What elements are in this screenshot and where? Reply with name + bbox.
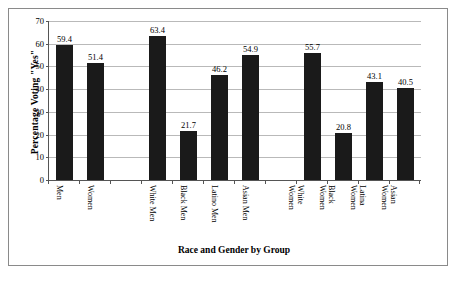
bar-value-label: 46.2 <box>212 64 227 74</box>
bar-slot: 43.1 <box>359 21 390 180</box>
bar[interactable]: 43.1 <box>366 82 383 180</box>
x-axis-tick-cell <box>141 180 172 184</box>
x-axis-category-label: Black Men <box>179 185 188 220</box>
x-axis-category-label-line1: Latina <box>358 185 367 205</box>
bar-value-label: 21.7 <box>181 120 196 130</box>
x-axis-tick-cell <box>265 180 296 184</box>
x-axis-tick-mark <box>141 180 142 184</box>
bar-value-label: 54.9 <box>243 44 258 54</box>
x-axis-tick-cell <box>358 180 389 184</box>
x-axis-category-label-line1: Asian Men <box>241 185 250 220</box>
bar[interactable]: 51.4 <box>87 63 104 180</box>
bar-value-label: 51.4 <box>88 52 103 62</box>
bar-slot: 46.2 <box>204 21 235 180</box>
x-axis-category-label: BlackWomen <box>318 185 336 210</box>
y-axis-tick-label: 30 <box>36 107 45 117</box>
bar[interactable]: 54.9 <box>242 55 259 180</box>
y-axis-tick-label: 40 <box>36 84 45 94</box>
x-axis-label-cell: Men <box>48 185 79 241</box>
bar-slot: 59.4 <box>49 21 80 180</box>
x-axis-tick-cell <box>172 180 203 184</box>
bar[interactable]: 55.7 <box>304 53 321 180</box>
x-axis-tick-mark <box>48 180 49 184</box>
x-axis-tick-mark <box>296 180 297 184</box>
x-axis-category-label-line1: Men <box>55 185 64 200</box>
x-axis-category-label: AsianWomen <box>380 185 398 210</box>
x-axis-tick-mark <box>172 180 173 184</box>
bar-chart-figure: Percentage Voting "Yes" 010203040506070 … <box>0 0 457 282</box>
x-axis-tick-cell <box>296 180 327 184</box>
x-axis-tick-cell <box>234 180 265 184</box>
bar[interactable]: 59.4 <box>56 45 73 180</box>
x-axis-label-cell <box>110 185 141 241</box>
x-axis-category-label-line1: Asian <box>389 185 398 204</box>
x-axis-tick-mark <box>358 180 359 184</box>
bar-slot: 55.7 <box>297 21 328 180</box>
x-axis-tick-cell <box>79 180 110 184</box>
bar-value-label: 55.7 <box>305 42 320 52</box>
y-axis-tick-label: 70 <box>36 16 45 26</box>
x-axis-category-label: White Men <box>148 185 157 221</box>
bar-slot: 54.9 <box>235 21 266 180</box>
x-axis-category-label: WhiteWomen <box>287 185 305 210</box>
plot-area: 010203040506070 59.451.463.421.746.254.9… <box>48 21 421 181</box>
x-axis-category-label-line1: Latino Men <box>210 185 219 223</box>
x-axis-category-labels: MenWomenWhite MenBlack MenLatino MenAsia… <box>48 185 420 241</box>
x-axis-tick-mark <box>265 180 266 184</box>
x-axis-tick-mark <box>419 180 420 184</box>
x-axis-category-label-line2: Women <box>349 185 358 210</box>
x-axis-category-label-line2: Women <box>380 185 389 210</box>
bar[interactable]: 46.2 <box>211 75 228 180</box>
x-axis-category-label-line2: Women <box>318 185 327 210</box>
y-axis-tick-label: 10 <box>36 152 45 162</box>
bar[interactable]: 63.4 <box>149 36 166 180</box>
bar-value-label: 40.5 <box>398 77 413 87</box>
x-axis-tick-mark <box>110 180 111 184</box>
x-axis-tick-mark <box>203 180 204 184</box>
x-axis-category-label: Women <box>86 185 95 210</box>
x-axis-tick-cell <box>48 180 79 184</box>
bar-slot-empty <box>266 21 297 180</box>
x-axis-title: Race and Gender by Group <box>48 245 420 255</box>
x-axis-label-cell: Asian Men <box>234 185 265 241</box>
bar-slot: 20.8 <box>328 21 359 180</box>
bar[interactable]: 21.7 <box>180 131 197 180</box>
bar-series: 59.451.463.421.746.254.955.720.843.140.5 <box>49 21 421 180</box>
x-axis-category-label: Latino Men <box>210 185 219 223</box>
x-axis-label-cell: Women <box>79 185 110 241</box>
bar-slot-empty <box>111 21 142 180</box>
x-axis-category-label-line1: Black <box>327 185 336 204</box>
bar[interactable]: 40.5 <box>397 88 414 180</box>
x-axis-label-cell: Black Men <box>172 185 203 241</box>
bar-slot: 63.4 <box>142 21 173 180</box>
x-axis-category-label: Asian Men <box>241 185 250 220</box>
bar-value-label: 59.4 <box>57 34 72 44</box>
bar[interactable]: 20.8 <box>335 133 352 180</box>
x-axis-category-label-line1: Black Men <box>179 185 188 220</box>
bar-slot: 40.5 <box>390 21 421 180</box>
y-axis-tick-label: 50 <box>36 61 45 71</box>
x-axis-category-label: LatinaWomen <box>349 185 367 210</box>
x-axis-tick-mark <box>327 180 328 184</box>
x-axis-label-cell: Latino Men <box>203 185 234 241</box>
bar-value-label: 20.8 <box>336 122 351 132</box>
x-axis-tick-cell <box>203 180 234 184</box>
x-axis-category-label-line1: White Men <box>148 185 157 221</box>
x-axis-tick-mark <box>389 180 390 184</box>
x-axis-tick-mark <box>234 180 235 184</box>
bar-slot: 51.4 <box>80 21 111 180</box>
x-axis-category-label-line2: Women <box>287 185 296 210</box>
x-axis-category-label-line1: White <box>296 185 305 205</box>
x-axis-tick-cell <box>110 180 141 184</box>
y-axis-tick-label: 20 <box>36 130 45 140</box>
x-axis-category-label-line1: Women <box>86 185 95 210</box>
x-axis-tick-mark <box>79 180 80 184</box>
x-axis-category-label: Men <box>55 185 64 200</box>
x-axis-tick-cell <box>389 180 420 184</box>
x-axis-label-cell: White Men <box>141 185 172 241</box>
bar-slot: 21.7 <box>173 21 204 180</box>
x-axis-tick-marks <box>48 180 420 184</box>
x-axis-tick-cell <box>327 180 358 184</box>
bar-value-label: 43.1 <box>367 71 382 81</box>
y-axis-tick-label: 0 <box>40 175 44 185</box>
